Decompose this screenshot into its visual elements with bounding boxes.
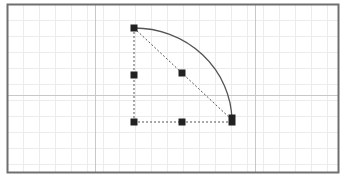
handle-origin[interactable] [131, 119, 138, 126]
handle-bottom-mid[interactable] [179, 119, 186, 126]
major-grid [8, 5, 339, 173]
canvas-frame [8, 5, 339, 173]
drawing-canvas[interactable] [0, 0, 345, 176]
handle-center[interactable] [179, 70, 186, 77]
handle-left-mid[interactable] [131, 72, 138, 79]
minor-grid [8, 5, 339, 173]
handle-top[interactable] [131, 25, 138, 32]
canvas-svg[interactable] [0, 0, 345, 176]
handle-arc-end[interactable] [229, 115, 236, 126]
